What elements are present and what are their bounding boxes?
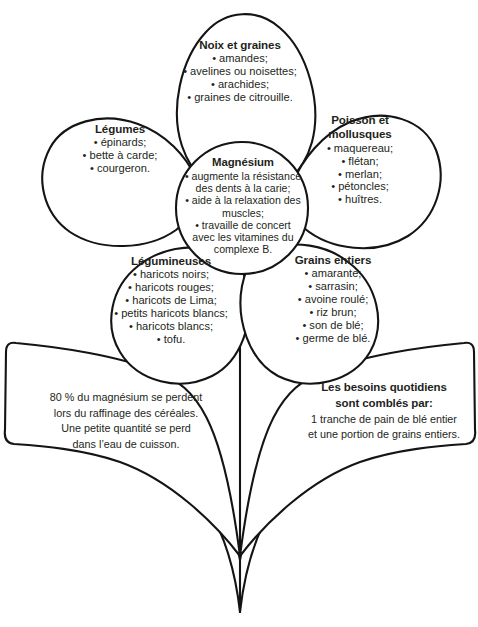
- petal-poisson-item: • pétoncles;: [297, 180, 423, 193]
- petal-legumes-item: • bette à carde;: [52, 149, 188, 162]
- petal-grains-item: • riz brun;: [274, 306, 392, 319]
- center-item-line: des dents à la carie;: [180, 182, 306, 194]
- petal-legumes-text: Légumes • épinards; • bette à carde; • c…: [52, 122, 188, 175]
- petal-legumineuses-text: Légumineuses • haricots noirs; • haricot…: [100, 254, 242, 346]
- leaf-right-text: Les besoins quotidiens sont comblés par:…: [296, 379, 472, 442]
- leaf-left-line: Une petite quantité se perd: [22, 421, 230, 437]
- leaf-right-line: 1 tranche de pain de blé entier: [296, 412, 472, 427]
- petal-grains-item: • son de blé;: [274, 319, 392, 332]
- magnesium-flower-diagram: Noix et graines • amandes; • avelines ou…: [0, 0, 478, 627]
- petal-noix-item: • avelines ou noisettes;: [155, 65, 325, 78]
- center-item-line: muscles;: [180, 207, 306, 219]
- leaf-left-text: 80 % du magnésium se perdent lors du raf…: [22, 390, 230, 453]
- center-magnesium-text: Magnésium • augmente la résistance des d…: [180, 156, 306, 256]
- leaf-right-heading-line1: Les besoins quotidiens: [296, 379, 472, 395]
- center-heading: Magnésium: [180, 156, 306, 169]
- center-item-line: avec les vitamines du: [180, 231, 306, 243]
- leaf-left-line: lors du raffinage des céréales.: [22, 406, 230, 422]
- petal-grains-entiers-text: Grains entiers • amarante; • sarrasin; •…: [274, 253, 392, 345]
- center-item-line: • augmente la résistance: [180, 170, 306, 182]
- leaf-left-line: dans l’eau de cuisson.: [22, 437, 230, 453]
- petal-legumineuses-item: • petits haricots blancs;: [100, 307, 242, 320]
- petal-poisson-heading-line1: Poisson et: [297, 113, 423, 126]
- petal-legumineuses-item: • tofu.: [100, 333, 242, 346]
- petal-noix-item: • amandes;: [155, 52, 325, 65]
- petal-legumineuses-heading: Légumineuses: [100, 254, 242, 267]
- petal-legumes-item: • courgeron.: [52, 162, 188, 175]
- petal-grains-item: • avoine roulé;: [274, 293, 392, 306]
- petal-legumineuses-item: • haricots blancs;: [100, 320, 242, 333]
- petal-grains-item: • amarante;: [274, 267, 392, 280]
- petal-poisson-item: • huîtres.: [297, 193, 423, 206]
- petal-noix-item: • graines de citrouille.: [155, 91, 325, 104]
- petal-poisson-heading-line2: mollusques: [297, 127, 423, 140]
- petal-legumineuses-item: • haricots de Lima;: [100, 294, 242, 307]
- leaf-left-line: 80 % du magnésium se perdent: [22, 390, 230, 406]
- petal-noix-item: • arachides;: [155, 78, 325, 91]
- center-item-line: • aide à la relaxation des: [180, 194, 306, 206]
- petal-poisson-item: • flétan;: [297, 155, 423, 168]
- petal-legumineuses-item: • haricots rouges;: [100, 281, 242, 294]
- petal-grains-item: • sarrasin;: [274, 280, 392, 293]
- petal-poisson-text: Poisson et mollusques • maquereau; • flé…: [297, 113, 423, 206]
- petal-grains-entiers-heading: Grains entiers: [274, 253, 392, 266]
- petal-poisson-item: • maquereau;: [297, 142, 423, 155]
- petal-legumineuses-item: • haricots noirs;: [100, 268, 242, 281]
- petal-grains-item: • germe de blé.: [274, 332, 392, 345]
- leaf-right-heading-line2: sont comblés par:: [296, 395, 472, 411]
- petal-poisson-item: • merlan;: [297, 168, 423, 181]
- petal-legumes-item: • épinards;: [52, 136, 188, 149]
- petal-noix-et-graines-text: Noix et graines • amandes; • avelines ou…: [155, 38, 325, 104]
- petal-noix-et-graines-heading: Noix et graines: [155, 38, 325, 51]
- petal-legumes-heading: Légumes: [52, 122, 188, 135]
- leaf-right-line: et une portion de grains entiers.: [296, 427, 472, 442]
- center-item-line: • travaille de concert: [180, 219, 306, 231]
